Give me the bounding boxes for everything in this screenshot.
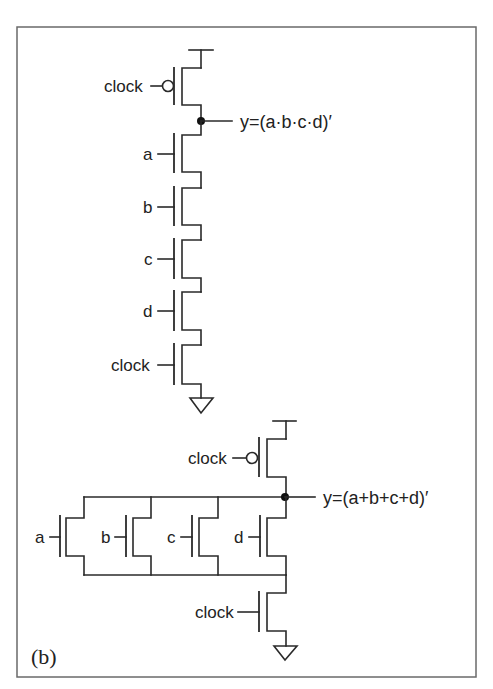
inverter-bubble-icon [247,453,258,464]
nmos-d: d [234,497,286,575]
top-circuit: clock y=(a·b·c·d)′ a b c [104,50,333,413]
input-b-label: b [101,528,110,547]
nand-output-label: y=(a·b·c·d)′ [240,112,333,132]
evaluate-clock-label: clock [111,356,150,375]
precharge-clock-label: clock [104,77,143,96]
precharge-pmos: clock [104,67,201,121]
nmos-b: b [143,186,201,240]
precharge-clock-label: clock [188,449,227,468]
panel-label: (b) [31,644,57,669]
nmos-d: d [143,290,201,345]
precharge-pmos: clock [188,437,286,497]
bottom-circuit: clock y=(a+b+c+d)′ a b c [35,421,429,660]
figure: clock y=(a·b·c·d)′ a b c [0,0,493,689]
nor-output-label: y=(a+b+c+d)′ [323,488,429,508]
ground-icon [190,398,213,413]
nmos-b: b [101,497,151,575]
ground-icon [274,646,297,660]
nmos-a: a [35,497,84,575]
input-a-label: a [35,528,45,547]
evaluate-nmos: clock [195,575,286,646]
input-a-label: a [143,145,153,164]
evaluate-nmos: clock [111,343,201,398]
nmos-c: c [144,238,201,292]
input-b-label: b [143,198,152,217]
input-c-label: c [167,528,176,547]
inverter-bubble-icon [163,81,174,92]
input-d-label: d [234,528,243,547]
evaluate-clock-label: clock [195,603,234,622]
nmos-a: a [143,121,201,188]
nmos-c: c [167,497,218,575]
input-d-label: d [143,302,152,321]
input-c-label: c [144,250,153,269]
